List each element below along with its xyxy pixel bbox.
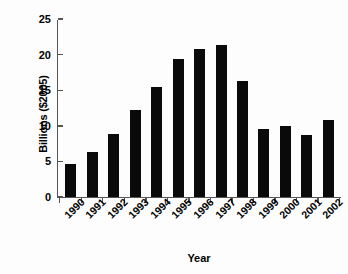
bar bbox=[108, 134, 119, 197]
bar bbox=[280, 126, 291, 197]
bar-slot bbox=[275, 20, 296, 197]
bar-slot bbox=[60, 20, 81, 197]
bar-slot bbox=[103, 20, 124, 197]
x-axis-labels: 1990199119921993199419951996199719981999… bbox=[57, 204, 341, 248]
y-tick-label: 15 bbox=[39, 83, 51, 97]
x-tick-mark bbox=[59, 198, 60, 203]
bar-slot bbox=[296, 20, 317, 197]
bar-chart: Billions ($2005) 0510152025 199019911992… bbox=[0, 0, 348, 274]
y-tick-label: 10 bbox=[39, 119, 51, 133]
bar bbox=[258, 129, 269, 197]
bar-slot bbox=[167, 20, 188, 197]
bar-slot bbox=[253, 20, 274, 197]
bar-slot bbox=[210, 20, 231, 197]
bar-slot bbox=[318, 20, 339, 197]
bar-series bbox=[58, 20, 341, 197]
bar bbox=[173, 59, 184, 197]
plot-area: 0510152025 bbox=[57, 20, 341, 198]
bar-slot bbox=[189, 20, 210, 197]
x-axis-title: Year bbox=[57, 252, 341, 264]
y-tick-label: 5 bbox=[45, 154, 51, 168]
bar-slot bbox=[124, 20, 145, 197]
bar bbox=[194, 49, 205, 197]
bar bbox=[323, 120, 334, 197]
bar-slot bbox=[81, 20, 102, 197]
bar bbox=[301, 135, 312, 197]
bar bbox=[130, 110, 141, 197]
y-tick-label: 25 bbox=[39, 12, 51, 26]
bar bbox=[237, 81, 248, 197]
bar bbox=[151, 87, 162, 197]
y-tick-label: 0 bbox=[45, 190, 51, 204]
bar-slot bbox=[146, 20, 167, 197]
y-tick-label: 20 bbox=[39, 48, 51, 62]
bar bbox=[216, 45, 227, 197]
bar bbox=[65, 164, 76, 197]
bar-slot bbox=[232, 20, 253, 197]
